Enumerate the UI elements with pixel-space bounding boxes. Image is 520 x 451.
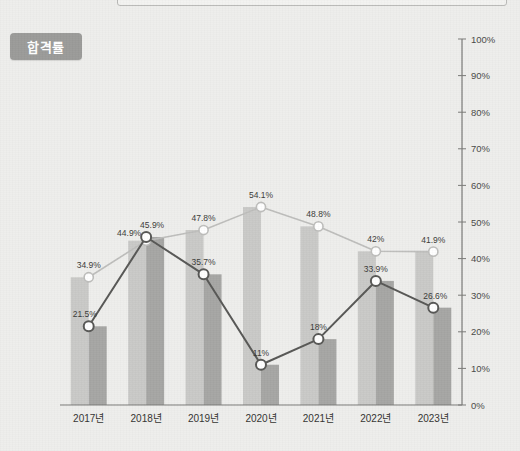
value-label-light-series-2017년: 34.9%	[77, 260, 102, 270]
marker-light-series-2022년	[371, 247, 380, 256]
y-tick-label-100%: 100%	[471, 34, 496, 45]
bar-light-bars-2021년	[300, 226, 318, 405]
marker-dark-series-2019년	[199, 269, 209, 279]
value-label-dark-series-2023년: 26.6%	[423, 291, 448, 301]
bar-dark-bars-2023년	[433, 308, 451, 405]
section-badge: 합격률	[10, 33, 82, 60]
x-category-label-2020년: 2020년	[245, 413, 276, 424]
x-axis-labels: 2017년2018년2019년2020년2021년2022년2023년	[73, 413, 449, 424]
x-category-label-2021년: 2021년	[303, 413, 334, 424]
bar-light-bars-2020년	[243, 207, 261, 405]
value-label-light-series-2020년: 54.1%	[249, 190, 274, 200]
bar-dark-bars-2020년	[261, 365, 279, 405]
marker-light-series-2017년	[84, 273, 93, 282]
x-category-label-2019년: 2019년	[188, 413, 219, 424]
value-label-dark-series-2018년: 45.9%	[140, 220, 165, 230]
y-axis-ticks: 0%10%20%30%40%50%60%70%80%90%100%	[458, 34, 496, 411]
y-tick-label-60%: 60%	[471, 180, 491, 191]
y-tick-label-70%: 70%	[471, 143, 491, 154]
value-label-light-series-2022년: 42%	[367, 234, 384, 244]
value-label-dark-series-2019년: 35.7%	[192, 257, 217, 267]
marker-light-series-2023년	[429, 247, 438, 256]
value-label-light-series-2018년: 44.9%	[117, 228, 142, 238]
y-tick-label-90%: 90%	[471, 70, 491, 81]
value-label-dark-series-2020년: 11%	[253, 348, 270, 358]
bar-light-bars-2019년	[186, 230, 204, 405]
marker-dark-series-2022년	[371, 276, 381, 286]
x-category-label-2017년: 2017년	[73, 413, 104, 424]
value-label-dark-series-2021년: 18%	[310, 322, 327, 332]
marker-dark-series-2020년	[256, 360, 266, 370]
y-tick-label-0%: 0%	[471, 400, 485, 411]
y-tick-label-30%: 30%	[471, 290, 491, 301]
bar-dark-bars-2017년	[89, 326, 107, 405]
y-tick-label-80%: 80%	[471, 107, 491, 118]
bar-light-bars-2018년	[128, 241, 146, 405]
value-label-light-series-2021년: 48.8%	[306, 209, 331, 219]
value-label-dark-series-2022년: 33.9%	[364, 264, 389, 274]
y-tick-label-40%: 40%	[471, 253, 491, 264]
x-category-label-2018년: 2018년	[131, 413, 162, 424]
bar-light-bars-2017년	[71, 277, 89, 405]
marker-light-series-2021년	[314, 222, 323, 231]
marker-dark-series-2018년	[141, 232, 151, 242]
y-tick-label-50%: 50%	[471, 217, 491, 228]
bar-dark-bars-2018년	[146, 237, 164, 405]
y-tick-label-10%: 10%	[471, 363, 491, 374]
bar-dark-bars-2022년	[376, 281, 394, 405]
marker-dark-series-2023년	[428, 303, 438, 313]
chart-svg: 0%10%20%30%40%50%60%70%80%90%100%2017년20…	[0, 0, 520, 451]
y-tick-label-20%: 20%	[471, 326, 491, 337]
bar-light-bars-2023년	[415, 252, 433, 405]
x-category-label-2022년: 2022년	[360, 413, 391, 424]
x-category-label-2023년: 2023년	[418, 413, 449, 424]
bar-dark-bars-2021년	[318, 339, 336, 405]
marker-dark-series-2021년	[313, 334, 323, 344]
value-label-dark-series-2017년: 21.5%	[73, 309, 98, 319]
value-label-light-series-2023년: 41.9%	[421, 235, 446, 245]
bar-light-bars-2022년	[358, 251, 376, 405]
bar-dark-bars-2019년	[204, 274, 222, 405]
pass-rate-chart: 0%10%20%30%40%50%60%70%80%90%100%2017년20…	[0, 0, 520, 451]
marker-dark-series-2017년	[84, 321, 94, 331]
marker-light-series-2019년	[199, 225, 208, 234]
value-label-light-series-2019년: 47.8%	[192, 213, 217, 223]
marker-light-series-2020년	[256, 202, 265, 211]
